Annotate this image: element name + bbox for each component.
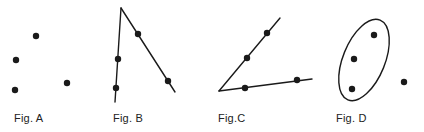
fig-b-label: Fig. B (113, 112, 143, 124)
fig-d-label: Fig. D (336, 112, 367, 124)
point (135, 31, 141, 37)
figure-panel: Fig. A Fig. B Fig.C Fig. D (0, 0, 424, 132)
point (371, 32, 377, 38)
fig-a-label: Fig. A (14, 112, 43, 124)
point (13, 57, 19, 63)
point (351, 56, 357, 62)
figure-d (328, 12, 407, 107)
enclosing-ellipse (328, 12, 399, 107)
point (165, 78, 171, 84)
figure-b (113, 8, 175, 102)
figure-a (12, 33, 70, 93)
point (33, 33, 39, 39)
point (401, 79, 407, 85)
point (294, 77, 300, 83)
point (115, 56, 121, 62)
point (349, 86, 355, 92)
fig-c-label: Fig.C (218, 112, 245, 124)
figure-c (219, 18, 312, 91)
point (242, 85, 248, 91)
point (113, 85, 119, 91)
point (64, 80, 70, 86)
point (12, 87, 18, 93)
point (264, 30, 270, 36)
point (244, 55, 250, 61)
line-segment (219, 18, 280, 91)
